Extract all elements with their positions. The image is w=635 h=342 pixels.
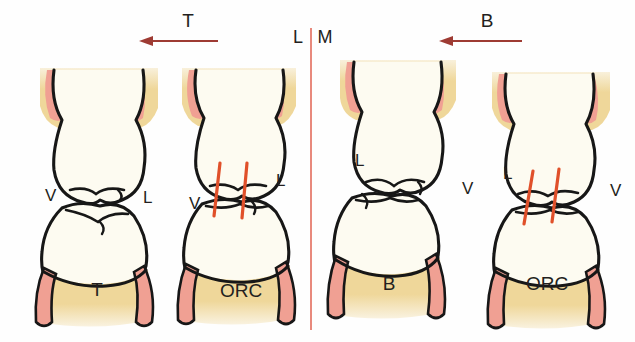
midline-label-mesial: M bbox=[318, 27, 333, 47]
upper-tooth-outline bbox=[195, 70, 285, 200]
unit-code-label: T bbox=[91, 279, 103, 300]
unit-code-label: ORC bbox=[526, 273, 568, 294]
label-vestibular: V bbox=[462, 179, 474, 198]
label-lingual: L bbox=[143, 188, 152, 207]
upper-tooth-outline bbox=[505, 74, 595, 206]
arrow-t-label: T bbox=[182, 10, 194, 31]
label-vestibular: V bbox=[189, 194, 201, 213]
label-lingual: L bbox=[503, 164, 512, 183]
label-lingual: L bbox=[276, 171, 285, 190]
midline-label-lingual: L bbox=[293, 27, 303, 47]
arrow-b-label: B bbox=[481, 10, 494, 31]
label-vestibular: V bbox=[610, 181, 622, 200]
unit-code-label: B bbox=[383, 273, 396, 294]
upper-tooth-outline bbox=[53, 70, 145, 204]
label-lingual: L bbox=[355, 151, 364, 170]
label-vestibular: V bbox=[45, 186, 57, 205]
upper-tooth-outline bbox=[353, 62, 443, 194]
illustration-canvas: T B L M V L T bbox=[0, 0, 635, 342]
unit-code-label: ORC bbox=[220, 280, 262, 301]
